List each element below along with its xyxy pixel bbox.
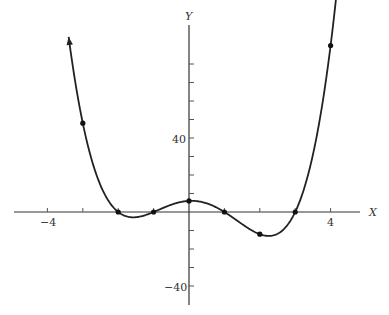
- x-tick-label-neg4: −4: [40, 216, 56, 229]
- x-tick-label-4: 4: [327, 216, 334, 229]
- data-point: [222, 209, 227, 214]
- data-point: [257, 232, 262, 237]
- polynomial-curve: [69, 0, 338, 236]
- data-point: [293, 209, 298, 214]
- data-point: [186, 198, 191, 203]
- x-axis-label: X: [368, 206, 378, 219]
- curve-arrows: [67, 0, 340, 45]
- arrowhead-icon: [67, 37, 73, 45]
- polynomial-chart: X Y −4 4 40 −40: [0, 0, 389, 315]
- y-tick-label-neg40: −40: [164, 281, 187, 294]
- data-point: [80, 121, 85, 126]
- axes: [14, 25, 360, 305]
- data-point: [151, 209, 156, 214]
- data-point: [328, 43, 333, 48]
- y-axis-label: Y: [185, 10, 194, 23]
- data-point: [116, 209, 121, 214]
- y-tick-label-40: 40: [172, 133, 186, 146]
- data-points: [80, 43, 333, 237]
